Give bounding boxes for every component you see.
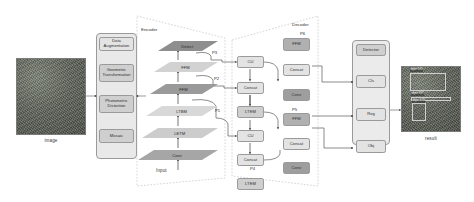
decoder-right-concat-2[interactable]: Concat	[283, 138, 310, 150]
encoder-layer-ltbm-label: LTBM	[177, 109, 188, 114]
encoder-layer-detect-label: Detect	[182, 44, 194, 49]
detector-inflow-dots	[351, 81, 353, 149]
encoder-layer-conv-label: Conv	[173, 153, 183, 158]
detector-head-reg[interactable]: Reg	[356, 108, 386, 121]
preprocess-item-photometric-distortion[interactable]: Photometric Distortion	[99, 95, 134, 113]
link-cu1-to-concat-r1	[264, 62, 278, 80]
detector-head-cls[interactable]: Cls	[356, 75, 386, 88]
arrow-dot	[137, 95, 139, 97]
encoder-layer-ffm-2-label: FFM	[180, 87, 188, 92]
decoder-right-conv-2[interactable]: Conv	[283, 162, 310, 174]
link-cu2-to-concat-r2	[264, 112, 278, 128]
encoder-tap-p1: P1	[215, 108, 220, 113]
preprocess-item-mosaic[interactable]: Mosaic	[99, 129, 134, 143]
encoder-tap-p2: P2	[214, 76, 219, 81]
detector-title-box: Detector	[356, 44, 386, 56]
figure-canvas: image Data Augmentation Geometric Transf…	[0, 0, 474, 202]
link-ltem2-to-conv-r2	[264, 150, 280, 160]
decoder-left-cu-1[interactable]: CU	[237, 56, 264, 68]
encoder-input-label: Input	[156, 168, 184, 173]
link-p1-to-concat2	[216, 118, 236, 136]
decoder-right-concat-1[interactable]: Concat	[283, 64, 310, 76]
preprocess-item-data-augmentation[interactable]: Data Augmentation	[99, 37, 134, 51]
decoder-right-ffm-1[interactable]: FFM	[283, 38, 310, 51]
detector-head-obj[interactable]: Obj	[356, 140, 386, 153]
decoder-left-ltem-1[interactable]: LTEM	[237, 106, 264, 118]
decoder-right-ffm-2[interactable]: FFM	[283, 113, 310, 126]
encoder-layer-ffm-1-label: FFM	[182, 65, 190, 70]
arrow-dot	[95, 95, 97, 97]
decoder-left-cu-2[interactable]: CU	[237, 130, 264, 142]
decoder-left-ltem-2[interactable]: LTEM	[237, 178, 264, 190]
decoder-left-concat-1[interactable]: Concat	[237, 82, 264, 94]
decoder-inflow-arrowheads	[235, 61, 237, 137]
preprocess-item-geometric-transformation[interactable]: Geometric Transformation	[99, 64, 134, 82]
encoder-layer-letm-label: LETM	[175, 131, 186, 136]
arrow-head-result	[399, 109, 401, 111]
decoder-left-concat-2[interactable]: Concat	[237, 154, 264, 166]
encoder-tap-p3: P3	[212, 50, 217, 55]
link-p2-to-concat1	[213, 86, 236, 88]
tap-curve-p3	[196, 52, 211, 60]
decoder-right-conv-1[interactable]: Conv	[283, 89, 310, 101]
connector-layer	[0, 0, 474, 202]
